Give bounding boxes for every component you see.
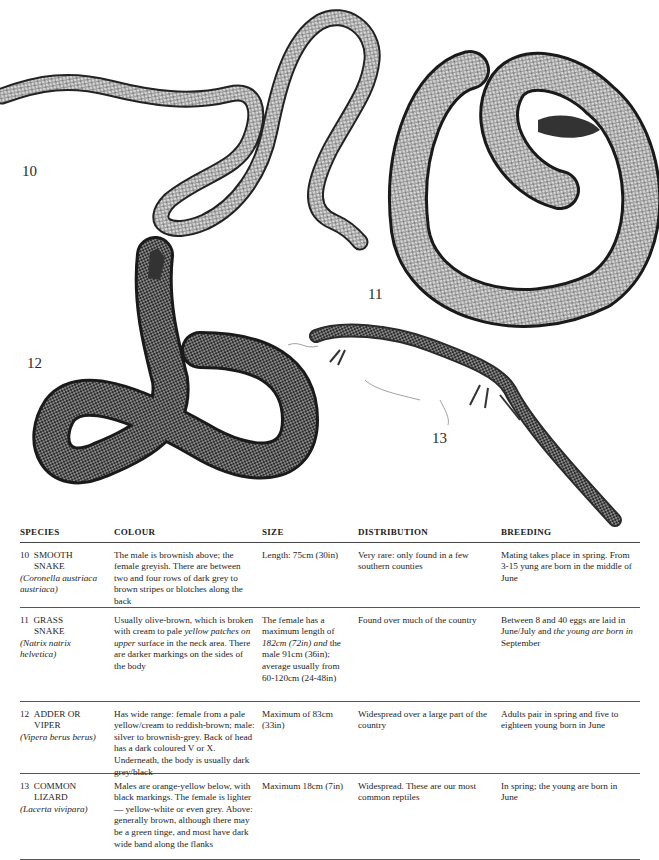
scientific-name: (Vipera berus berus) <box>20 732 108 744</box>
species-cell: 12 ADDER OR VIPER (Vipera berus berus) <box>20 709 114 779</box>
species-name: COMMON <box>34 781 76 791</box>
scientific-name: (Lacerta vivipara) <box>20 804 108 816</box>
header-breeding: BREEDING <box>501 527 640 539</box>
species-name: GRASS <box>33 615 63 625</box>
species-name-cont: VIPER <box>20 720 108 732</box>
figure-number-13: 13 <box>432 430 447 447</box>
colour-cell: Has wide range: female from a pale yello… <box>114 709 262 779</box>
table-header: SPECIES COLOUR SIZE DISTRIBUTION BREEDIN… <box>20 527 640 543</box>
size-cell: Length: 75cm (30in) <box>262 550 358 608</box>
species-name: ADDER OR <box>34 709 81 719</box>
header-size: SIZE <box>262 527 358 539</box>
species-name-cont: LIZARD <box>20 792 108 804</box>
species-name: SMOOTH <box>34 550 73 560</box>
adder-drawing <box>51 248 300 465</box>
header-species: SPECIES <box>20 527 114 539</box>
size-cell: Maximum of 83cm (33in) <box>262 709 358 779</box>
breeding-cell: Mating takes place in spring. From 3-15 … <box>501 550 640 608</box>
smooth-snake-drawing <box>2 18 372 242</box>
species-name-cont: SNAKE <box>20 561 108 573</box>
figure-number-12: 12 <box>27 355 42 372</box>
distribution-cell: Widespread over a large part of the coun… <box>358 709 501 779</box>
size-cell: Maximum 18cm (7in) <box>262 781 358 859</box>
breeding-cell: Adults pair in spring and five to eighte… <box>501 709 640 779</box>
distribution-cell: Found over much of the country <box>358 615 501 701</box>
table-row: 13 COMMON LIZARD (Lacerta vivipara) Male… <box>20 774 640 860</box>
reptile-illustrations <box>0 0 659 530</box>
species-name-cont: SNAKE <box>20 626 108 638</box>
distribution-cell: Very rare: only found in a few southern … <box>358 550 501 608</box>
table-row: 10 SMOOTH SNAKE (Coronella austriaca aus… <box>20 543 640 608</box>
table-row: 12 ADDER OR VIPER (Vipera berus berus) H… <box>20 702 640 774</box>
figure-number-11: 11 <box>368 286 382 303</box>
scientific-name: (Coronella austriaca austriaca) <box>20 573 108 596</box>
header-colour: COLOUR <box>114 527 262 539</box>
species-number: 13 <box>20 781 29 791</box>
species-cell: 10 SMOOTH SNAKE (Coronella austriaca aus… <box>20 550 114 608</box>
scientific-name: (Natrix natrix helvetica) <box>20 638 108 661</box>
figure-number-10: 10 <box>22 163 37 180</box>
species-cell: 11 GRASS SNAKE (Natrix natrix helvetica) <box>20 615 114 701</box>
species-table: SPECIES COLOUR SIZE DISTRIBUTION BREEDIN… <box>20 527 640 860</box>
grass-snake-drawing <box>408 70 641 308</box>
table-row: 11 GRASS SNAKE (Natrix natrix helvetica)… <box>20 608 640 702</box>
breeding-cell: Between 8 and 40 eggs are laid in June/J… <box>501 615 640 701</box>
breeding-cell: In spring; the young are born in June <box>501 781 640 859</box>
common-lizard-drawing <box>288 330 615 520</box>
header-distribution: DISTRIBUTION <box>358 527 501 539</box>
species-number: 12 <box>20 709 29 719</box>
species-cell: 13 COMMON LIZARD (Lacerta vivipara) <box>20 781 114 859</box>
colour-cell: The male is brownish above; the female g… <box>114 550 262 608</box>
distribution-cell: Widespread. These are our most common re… <box>358 781 501 859</box>
colour-cell: Usually olive-brown, which is broken wit… <box>114 615 262 701</box>
illustration-plate: 10 11 12 13 <box>0 0 659 530</box>
size-cell: The female has a maximum length of 182cm… <box>262 615 358 701</box>
species-number: 10 <box>20 550 29 560</box>
species-number: 11 <box>20 615 29 625</box>
colour-cell: Males are orange-yellow below, with blac… <box>114 781 262 859</box>
